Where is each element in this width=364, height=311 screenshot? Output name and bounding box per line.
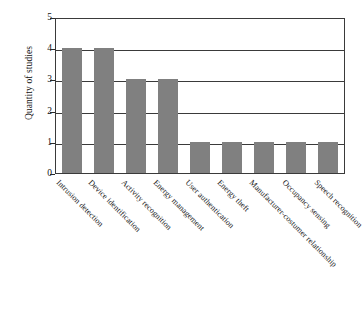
y-tick-mark — [50, 112, 55, 113]
bar-slot — [216, 19, 248, 173]
bar[interactable] — [158, 79, 178, 173]
y-tick-mark — [50, 49, 55, 50]
y-tick-mark — [50, 143, 55, 144]
bar-slot — [248, 19, 280, 173]
bar-slot — [88, 19, 120, 173]
x-tick-label: Energy theft — [216, 178, 251, 213]
bar[interactable] — [190, 142, 210, 173]
bar[interactable] — [254, 142, 274, 173]
y-axis-tick-labels: 012345 — [36, 18, 52, 174]
bar-slot — [120, 19, 152, 173]
y-tick-mark — [50, 18, 55, 19]
x-axis-tick-labels: Intrusion detectionDevice identification… — [55, 174, 345, 311]
bar[interactable] — [222, 142, 242, 173]
bar-slot — [280, 19, 312, 173]
bar[interactable] — [62, 48, 82, 173]
bar[interactable] — [286, 142, 306, 173]
y-tick-mark — [50, 174, 55, 175]
bar-slot — [184, 19, 216, 173]
bar-slot — [56, 19, 88, 173]
y-axis-title: Quantity of studies — [24, 23, 34, 143]
bar-series — [56, 19, 344, 173]
bar[interactable] — [318, 142, 338, 173]
bar[interactable] — [126, 79, 146, 173]
y-tick-mark — [50, 80, 55, 81]
plot-area — [55, 18, 345, 174]
bar-slot — [312, 19, 344, 173]
bar-slot — [152, 19, 184, 173]
bar[interactable] — [94, 48, 114, 173]
